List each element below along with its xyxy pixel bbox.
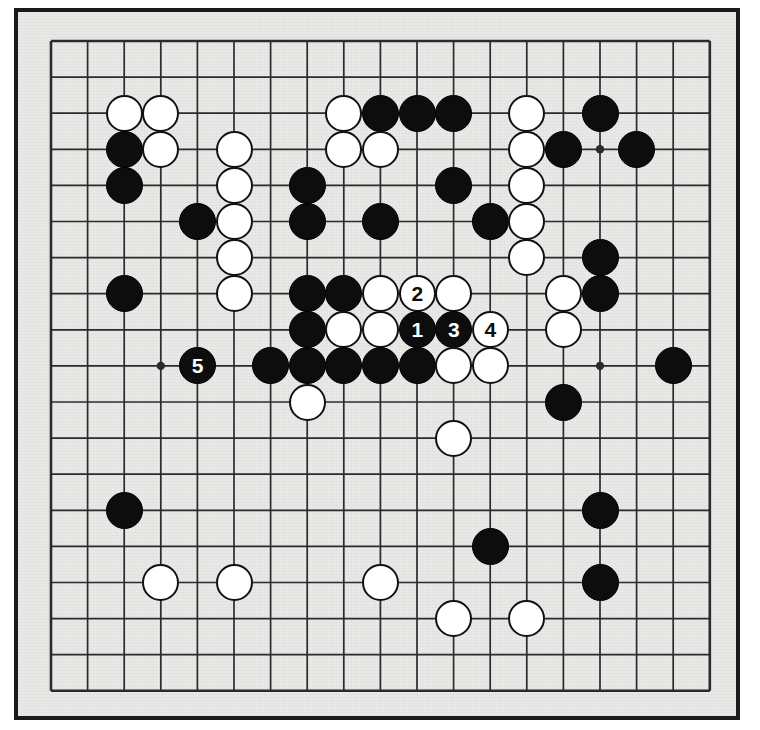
- go-board-frame: 21345: [14, 8, 740, 720]
- stone-white: [216, 564, 253, 601]
- stone-black: [655, 347, 692, 384]
- stone-white: [508, 600, 545, 637]
- stone-black: [362, 347, 399, 384]
- numbered-stone-black-3: 3: [435, 311, 472, 348]
- stone-black: [435, 95, 472, 132]
- stone-move-number: 3: [448, 319, 459, 340]
- stone-white: [325, 95, 362, 132]
- stone-white: [142, 95, 179, 132]
- stone-black: [472, 528, 509, 565]
- stone-black: [106, 167, 143, 204]
- stone-black: [289, 275, 326, 312]
- stone-white: [106, 95, 143, 132]
- numbered-stone-black-1: 1: [399, 311, 436, 348]
- stone-white: [508, 131, 545, 168]
- numbered-stone-black-5: 5: [179, 347, 216, 384]
- stone-black: [582, 564, 619, 601]
- stone-move-number: 1: [411, 319, 422, 340]
- stone-black: [399, 95, 436, 132]
- stone-black: [399, 347, 436, 384]
- stone-white: [216, 131, 253, 168]
- stone-black: [289, 311, 326, 348]
- stone-black: [472, 203, 509, 240]
- stone-black: [289, 347, 326, 384]
- stone-white: [362, 275, 399, 312]
- stone-white: [362, 131, 399, 168]
- stone-move-number: 4: [485, 319, 496, 340]
- stone-black: [289, 167, 326, 204]
- stone-black: [582, 239, 619, 276]
- stone-black: [179, 203, 216, 240]
- numbered-stone-white-2: 2: [399, 275, 436, 312]
- stone-black: [582, 275, 619, 312]
- stone-white: [216, 167, 253, 204]
- stone-white: [435, 347, 472, 384]
- stone-white: [325, 311, 362, 348]
- stone-black: [106, 275, 143, 312]
- numbered-stone-white-4: 4: [472, 311, 509, 348]
- stone-white: [362, 311, 399, 348]
- stone-white: [325, 131, 362, 168]
- stone-white: [216, 275, 253, 312]
- stone-black: [106, 492, 143, 529]
- stone-white: [545, 311, 582, 348]
- stone-black: [435, 167, 472, 204]
- stone-white: [508, 95, 545, 132]
- stone-black: [362, 95, 399, 132]
- stone-white: [508, 167, 545, 204]
- stone-black: [545, 384, 582, 421]
- screenshot-root: 21345: [0, 0, 760, 730]
- stone-black: [618, 131, 655, 168]
- stone-white: [216, 239, 253, 276]
- stone-black: [252, 347, 289, 384]
- stone-white: [142, 564, 179, 601]
- stone-white: [142, 131, 179, 168]
- stone-white: [472, 347, 509, 384]
- go-stones-layer: 21345: [18, 12, 744, 724]
- stone-white: [508, 239, 545, 276]
- stone-white: [435, 420, 472, 457]
- stone-white: [545, 275, 582, 312]
- stone-white: [508, 203, 545, 240]
- stone-black: [325, 275, 362, 312]
- stone-move-number: 5: [192, 355, 203, 376]
- stone-black: [289, 203, 326, 240]
- stone-black: [582, 492, 619, 529]
- stone-white: [289, 384, 326, 421]
- stone-white: [216, 203, 253, 240]
- stone-white: [435, 275, 472, 312]
- stone-black: [582, 95, 619, 132]
- stone-white: [362, 564, 399, 601]
- stone-black: [106, 131, 143, 168]
- stone-white: [435, 600, 472, 637]
- stone-black: [362, 203, 399, 240]
- stone-black: [545, 131, 582, 168]
- stone-black: [325, 347, 362, 384]
- stone-move-number: 2: [411, 283, 422, 304]
